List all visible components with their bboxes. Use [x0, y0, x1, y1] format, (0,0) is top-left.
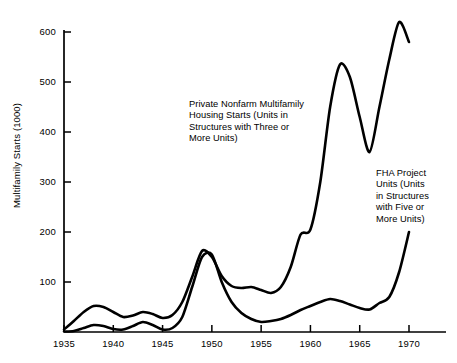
annotation-line: More Units)	[189, 133, 321, 144]
x-tick-label: 1960	[290, 338, 330, 349]
annotation-line: with Five or	[376, 202, 454, 213]
y-tick-label: 100	[22, 276, 56, 287]
annotation-line: FHA Project	[376, 168, 454, 179]
chart-container: Multifamily Starts (1000) 10020030040050…	[0, 0, 457, 363]
annotation-line: Units (Units	[376, 179, 454, 190]
annotation-line: Private Nonfarm Multifamily	[189, 99, 321, 110]
annotation-line: Structures with Three or	[189, 122, 321, 133]
y-tick-label: 400	[22, 126, 56, 137]
y-axis-tick-marks	[64, 32, 71, 282]
y-tick-label: 200	[22, 226, 56, 237]
x-tick-label: 1965	[340, 338, 380, 349]
annotation-line: More Units)	[376, 214, 454, 225]
annotation-line: in Structures	[376, 191, 454, 202]
annotation-fha-project: FHA ProjectUnits (Unitsin Structureswith…	[376, 168, 454, 225]
x-tick-label: 1970	[389, 338, 429, 349]
x-tick-label: 1940	[93, 338, 133, 349]
y-tick-label: 600	[22, 26, 56, 37]
x-tick-label: 1935	[44, 338, 84, 349]
x-tick-label: 1945	[143, 338, 183, 349]
x-tick-label: 1955	[241, 338, 281, 349]
x-tick-label: 1950	[192, 338, 232, 349]
series-line-private-nonfarm	[64, 22, 409, 330]
annotation-private-nonfarm: Private Nonfarm MultifamilyHousing Start…	[189, 99, 321, 145]
y-tick-label: 500	[22, 76, 56, 87]
annotation-line: Housing Starts (Units in	[189, 110, 321, 121]
series-line-fha-project	[64, 232, 409, 332]
y-tick-label: 300	[22, 176, 56, 187]
